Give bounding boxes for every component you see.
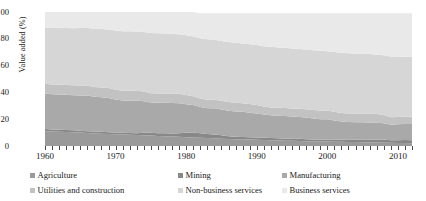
x-minor-tick bbox=[292, 146, 293, 150]
x-minor-tick bbox=[193, 146, 194, 150]
legend-item-manufacturing[interactable]: Manufacturing bbox=[282, 171, 406, 180]
x-minor-tick bbox=[370, 146, 371, 150]
legend-item-label: Mining bbox=[186, 171, 211, 180]
x-minor-tick bbox=[123, 146, 124, 150]
y-tick-label: 20 bbox=[0, 115, 9, 124]
legend-item-label: Manufacturing bbox=[290, 171, 341, 180]
y-tick-label: 40 bbox=[0, 88, 9, 97]
x-minor-tick bbox=[101, 146, 102, 150]
chart-legend: AgricultureMiningManufacturingUtilities … bbox=[30, 168, 406, 198]
x-minor-tick bbox=[87, 146, 88, 150]
x-minor-tick bbox=[158, 146, 159, 150]
legend-swatch-icon bbox=[178, 188, 183, 193]
legend-item-agriculture[interactable]: Agriculture bbox=[30, 171, 178, 180]
x-tick-label: 1980 bbox=[177, 152, 195, 161]
x-minor-tick bbox=[341, 146, 342, 150]
x-minor-tick bbox=[94, 146, 95, 150]
legend-swatch-icon bbox=[30, 188, 35, 193]
x-minor-tick bbox=[80, 146, 81, 150]
legend-item-utilities-and-construction[interactable]: Utilities and construction bbox=[30, 186, 178, 195]
plot-area bbox=[45, 12, 412, 146]
x-minor-tick bbox=[172, 146, 173, 150]
x-minor-tick bbox=[151, 146, 152, 150]
x-minor-tick bbox=[299, 146, 300, 150]
x-minor-tick bbox=[377, 146, 378, 150]
x-minor-tick bbox=[363, 146, 364, 150]
legend-item-label: Agriculture bbox=[38, 171, 78, 180]
legend-item-label: Utilities and construction bbox=[38, 186, 125, 195]
x-minor-tick bbox=[73, 146, 74, 150]
x-minor-tick bbox=[243, 146, 244, 150]
x-minor-tick bbox=[313, 146, 314, 150]
x-minor-tick bbox=[412, 146, 413, 150]
x-minor-tick bbox=[405, 146, 406, 150]
x-minor-tick bbox=[334, 146, 335, 150]
x-minor-tick bbox=[66, 146, 67, 150]
x-minor-tick bbox=[257, 146, 258, 150]
x-minor-tick bbox=[229, 146, 230, 150]
x-minor-tick bbox=[221, 146, 222, 150]
x-minor-tick bbox=[109, 146, 110, 150]
x-tick-label: 1970 bbox=[107, 152, 125, 161]
legend-item-non-business-services[interactable]: Non-business services bbox=[178, 186, 282, 195]
x-minor-tick bbox=[116, 146, 117, 150]
stacked-area-series-container bbox=[45, 12, 412, 146]
x-minor-tick bbox=[236, 146, 237, 150]
legend-item-business-services[interactable]: Business services bbox=[282, 186, 406, 195]
y-tick-label: 80 bbox=[0, 34, 9, 43]
x-minor-tick bbox=[398, 146, 399, 150]
y-tick-label: 60 bbox=[0, 61, 9, 70]
x-tick-label: 2000 bbox=[318, 152, 336, 161]
legend-swatch-icon bbox=[282, 173, 287, 178]
x-minor-tick bbox=[144, 146, 145, 150]
stacked-area-chart-figure: Value added (%) 020406080100 19601970198… bbox=[0, 0, 426, 201]
x-minor-tick bbox=[186, 146, 187, 150]
y-axis-title: Value added (%) bbox=[18, 0, 27, 105]
x-minor-tick bbox=[348, 146, 349, 150]
legend-swatch-icon bbox=[30, 173, 35, 178]
x-minor-tick bbox=[356, 146, 357, 150]
x-minor-tick bbox=[59, 146, 60, 150]
x-minor-tick bbox=[285, 146, 286, 150]
x-minor-tick bbox=[391, 146, 392, 150]
x-minor-tick bbox=[264, 146, 265, 150]
x-minor-tick bbox=[271, 146, 272, 150]
x-axis-tick-labels: 196019701980199020002010 bbox=[0, 152, 426, 166]
y-tick-label: 0 bbox=[0, 142, 9, 151]
x-minor-tick bbox=[200, 146, 201, 150]
x-tick-label: 1960 bbox=[36, 152, 54, 161]
x-minor-tick bbox=[52, 146, 53, 150]
x-minor-tick bbox=[384, 146, 385, 150]
x-minor-tick bbox=[327, 146, 328, 150]
x-minor-tick bbox=[45, 146, 46, 150]
legend-swatch-icon bbox=[178, 173, 183, 178]
legend-swatch-icon bbox=[282, 188, 287, 193]
x-minor-tick bbox=[250, 146, 251, 150]
legend-item-label: Business services bbox=[290, 186, 350, 195]
y-tick-label: 100 bbox=[0, 8, 9, 17]
x-tick-label: 2010 bbox=[389, 152, 407, 161]
x-minor-tick bbox=[179, 146, 180, 150]
x-minor-tick bbox=[214, 146, 215, 150]
x-tick-label: 1990 bbox=[248, 152, 266, 161]
x-minor-tick bbox=[137, 146, 138, 150]
x-minor-tick bbox=[278, 146, 279, 150]
x-minor-tick bbox=[207, 146, 208, 150]
x-minor-tick bbox=[306, 146, 307, 150]
x-minor-tick bbox=[320, 146, 321, 150]
x-minor-tick bbox=[165, 146, 166, 150]
legend-item-label: Non-business services bbox=[186, 186, 263, 195]
legend-item-mining[interactable]: Mining bbox=[178, 171, 282, 180]
x-minor-tick bbox=[130, 146, 131, 150]
